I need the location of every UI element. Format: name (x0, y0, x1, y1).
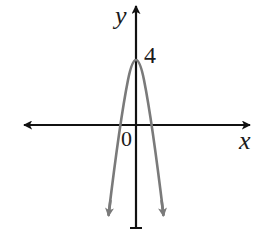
graph-canvas (0, 0, 264, 230)
y-axis-label: y (115, 3, 127, 29)
vertex-value-label: 4 (144, 43, 156, 67)
y-axis (130, 6, 142, 228)
x-axis-label: x (239, 128, 251, 154)
parabola-graph: y x 4 0 (0, 0, 264, 230)
origin-label: 0 (121, 128, 132, 150)
